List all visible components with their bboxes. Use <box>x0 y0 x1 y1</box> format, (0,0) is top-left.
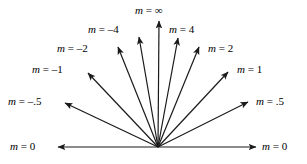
slope-variable: m <box>237 63 245 75</box>
slope-variable: m <box>135 4 143 16</box>
slope-value: 0 <box>282 140 288 152</box>
ray-m-1-label: m = 1 <box>237 64 262 75</box>
equals-sign: = <box>267 95 273 107</box>
slope-variable: m <box>10 140 18 152</box>
ray-m-infinity <box>158 21 159 147</box>
ray-m-2-label: m = 2 <box>208 43 233 54</box>
ray-m-neg-half-label: m = –.5 <box>8 96 41 107</box>
equals-sign: = <box>68 42 74 54</box>
ray-m-half-label: m = .5 <box>256 96 284 107</box>
ray-m-neg-half <box>65 103 158 147</box>
slope-value: –.5 <box>28 95 42 107</box>
slope-variable: m <box>88 23 96 35</box>
slope-variable: m <box>262 140 270 152</box>
ray-m-neg-2 <box>118 47 158 147</box>
slope-value: 2 <box>228 42 234 54</box>
slope-fan-graphic <box>0 0 307 164</box>
slope-value: 0 <box>30 140 36 152</box>
slope-value: –4 <box>108 23 119 35</box>
ray-m-neg-1-label: m = –1 <box>32 64 63 75</box>
ray-m-4 <box>158 38 178 147</box>
ray-m-neg-4-label: m = –4 <box>88 24 119 35</box>
slope-value: 4 <box>189 23 195 35</box>
slope-variable: m <box>208 42 216 54</box>
equals-sign: = <box>21 140 27 152</box>
slope-value: –2 <box>77 42 88 54</box>
slope-value: ∞ <box>155 4 163 16</box>
slope-variable: m <box>169 23 177 35</box>
rays-group <box>58 21 256 147</box>
slope-value: –1 <box>52 63 63 75</box>
slope-fan-diagram: m = 0m = –.5m = –1m = –2m = –4m = ∞m = 4… <box>0 0 307 164</box>
ray-m-1 <box>158 72 228 147</box>
slope-variable: m <box>32 63 40 75</box>
equals-sign: = <box>180 23 186 35</box>
equals-sign: = <box>43 63 49 75</box>
ray-m-neg-2-label: m = –2 <box>57 43 88 54</box>
equals-sign: = <box>146 4 152 16</box>
slope-variable: m <box>256 95 264 107</box>
ray-m-infinity-label: m = ∞ <box>135 5 163 16</box>
equals-sign: = <box>273 140 279 152</box>
ray-m-0-right-label: m = 0 <box>262 141 287 152</box>
equals-sign: = <box>19 95 25 107</box>
slope-variable: m <box>8 95 16 107</box>
slope-variable: m <box>57 42 65 54</box>
slope-value: .5 <box>276 95 284 107</box>
ray-m-0-left-label: m = 0 <box>10 141 35 152</box>
ray-m-4-label: m = 4 <box>169 24 194 35</box>
equals-sign: = <box>219 42 225 54</box>
ray-m-2 <box>158 47 199 147</box>
slope-value: 1 <box>257 63 263 75</box>
equals-sign: = <box>248 63 254 75</box>
equals-sign: = <box>99 23 105 35</box>
ray-m-half <box>158 102 248 147</box>
